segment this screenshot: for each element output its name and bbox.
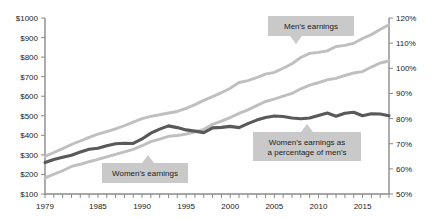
x-tick-label: 1990 xyxy=(133,202,151,211)
callout-pointer xyxy=(142,155,154,163)
callout: Men's earnings xyxy=(268,16,354,44)
left-bottom-axis xyxy=(45,18,389,194)
x-tick-label: 1979 xyxy=(36,202,54,211)
y-left-tick-label: $200 xyxy=(20,170,38,179)
y-left-tick-label: $300 xyxy=(20,151,38,160)
x-tick-label: 2000 xyxy=(221,202,239,211)
callout-label: Women's earnings as xyxy=(269,138,346,147)
y-right-tick-label: 100% xyxy=(396,64,416,73)
x-tick-label: 2015 xyxy=(354,202,372,211)
y-right-tick-label: 80% xyxy=(396,115,412,124)
y-left-tick-label: $500 xyxy=(20,112,38,121)
callout: Women's earnings xyxy=(102,155,188,183)
y-right-tick-label: 90% xyxy=(396,89,412,98)
y-right-tick-label: 70% xyxy=(396,140,412,149)
y-left-tick-label: $100 xyxy=(20,190,38,199)
callout: Women's earnings asa percentage of men's xyxy=(253,124,361,161)
y-left-tick-label: $1000 xyxy=(16,14,39,23)
x-tick-label: 1995 xyxy=(177,202,195,211)
y-right-tick-label: 110% xyxy=(396,39,416,48)
callout-background xyxy=(253,132,361,161)
callout-label: a percentage of men's xyxy=(268,148,347,157)
chart-canvas: $100$200$300$400$500$600$700$800$900$100… xyxy=(0,0,434,218)
x-tick-label: 2005 xyxy=(265,202,283,211)
earnings-line-chart: $100$200$300$400$500$600$700$800$900$100… xyxy=(0,0,434,218)
y-left-tick-label: $900 xyxy=(20,34,38,43)
y-left-tick-label: $600 xyxy=(20,92,38,101)
y-left-tick-label: $400 xyxy=(20,131,38,140)
y-left-tick-label: $800 xyxy=(20,53,38,62)
y-right-tick-label: 60% xyxy=(396,165,412,174)
callout-label: Men's earnings xyxy=(284,22,338,31)
y-left-tick-label: $700 xyxy=(20,73,38,82)
y-right-tick-label: 50% xyxy=(396,190,412,199)
callout-label: Women's earnings xyxy=(112,169,178,178)
callout-pointer xyxy=(301,124,313,132)
y-right-tick-label: 120% xyxy=(396,14,416,23)
x-tick-label: 1985 xyxy=(89,202,107,211)
callout-pointer xyxy=(290,36,302,44)
x-tick-label: 2010 xyxy=(310,202,328,211)
